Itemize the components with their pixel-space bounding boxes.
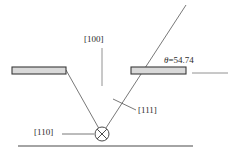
left-ray-line	[66, 70, 102, 134]
label-direction-100: [100]	[84, 35, 104, 44]
leader-line-111	[113, 99, 136, 110]
left-cantilever-bar	[12, 67, 66, 74]
label-direction-111: [111]	[138, 106, 157, 115]
angle-value: 54.74	[174, 55, 194, 65]
crystal-orientation-diagram: [100] [111] [110] θ=54.74	[0, 0, 238, 160]
label-angle-theta: θ=54.74	[164, 56, 194, 65]
right-cantilever-bar	[131, 67, 186, 74]
label-direction-110: [110]	[34, 128, 53, 137]
